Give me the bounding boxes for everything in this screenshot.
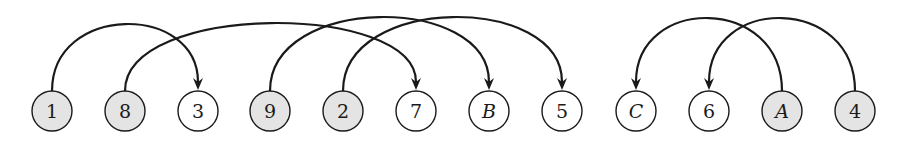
arc-diagram: 183927B5C6A4 xyxy=(0,0,907,145)
node-label: 1 xyxy=(46,100,58,122)
node-A: A xyxy=(762,91,802,131)
node-9: 9 xyxy=(250,91,290,131)
node-label: 4 xyxy=(849,100,861,122)
arc-9-to-B xyxy=(270,17,489,91)
node-label: 9 xyxy=(264,100,276,122)
node-label: 5 xyxy=(556,100,568,122)
arcs-layer xyxy=(52,17,855,91)
node-4: 4 xyxy=(835,91,875,131)
node-label: 6 xyxy=(703,100,715,122)
arc-2-to-5 xyxy=(343,17,562,91)
arc-1-to-3 xyxy=(52,24,198,91)
node-label: 7 xyxy=(410,100,422,122)
node-2: 2 xyxy=(323,91,363,131)
node-7: 7 xyxy=(396,91,436,131)
node-3: 3 xyxy=(178,91,218,131)
node-label: 3 xyxy=(192,100,204,122)
node-C: C xyxy=(616,91,656,131)
node-8: 8 xyxy=(105,91,145,131)
node-label: 8 xyxy=(119,100,131,122)
node-5: 5 xyxy=(542,91,582,131)
node-label: B xyxy=(481,100,496,122)
node-6: 6 xyxy=(689,91,729,131)
node-label: C xyxy=(629,100,644,122)
nodes-layer: 183927B5C6A4 xyxy=(32,91,875,131)
node-label: A xyxy=(773,100,789,122)
node-1: 1 xyxy=(32,91,72,131)
node-B: B xyxy=(469,91,509,131)
node-label: 2 xyxy=(337,100,349,122)
